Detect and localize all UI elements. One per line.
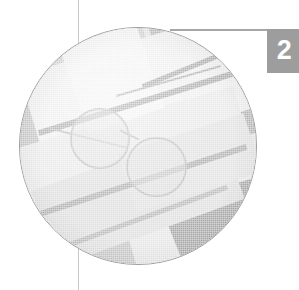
chapter-photo xyxy=(19,27,257,265)
photo-shape-eyeglass-lens-right xyxy=(126,137,187,198)
chapter-number: 2 xyxy=(277,37,292,64)
photo-composition xyxy=(20,28,256,264)
chapter-number-tab: 2 xyxy=(267,29,299,73)
photo-shape-eyeglass-lens-left xyxy=(70,108,131,169)
chapter-opener-page: 2 xyxy=(0,0,299,290)
